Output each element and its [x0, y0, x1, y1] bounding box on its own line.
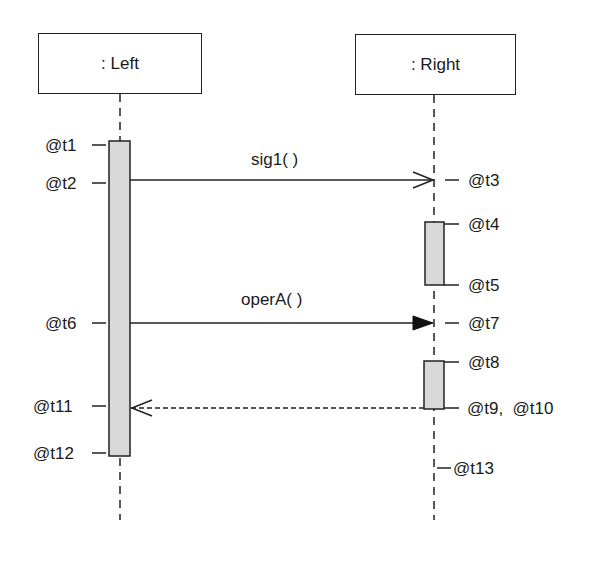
time-label-t8: @t8 — [468, 354, 499, 371]
time-label-t2: @t2 — [45, 175, 76, 192]
right-activation-bar-1 — [425, 222, 444, 285]
time-label-t4: @t4 — [468, 216, 499, 233]
left-lifeline-label: : Left — [101, 54, 139, 74]
sig1-message-label: sig1( ) — [251, 151, 298, 168]
left-activation-bar — [109, 141, 130, 456]
opera-message-label: operA( ) — [241, 291, 302, 308]
filled-arrowhead-icon — [413, 316, 433, 330]
time-label-t1: @t1 — [45, 137, 76, 154]
time-label-t12: @t12 — [33, 445, 74, 462]
time-label-t11: @t11 — [33, 398, 73, 415]
left-lifeline-header: : Left — [38, 33, 202, 94]
right-activation-bar-2 — [424, 361, 444, 409]
time-label-t6: @t6 — [45, 315, 76, 332]
time-label-t7: @t7 — [468, 315, 499, 332]
time-label-t13: @t13 — [453, 460, 494, 477]
time-label-t9-t10: @t9, @t10 — [467, 400, 554, 417]
right-lifeline-label: : Right — [411, 55, 460, 75]
right-lifeline-header: : Right — [355, 34, 516, 95]
time-label-t5: @t5 — [468, 277, 499, 294]
time-label-t3: @t3 — [468, 172, 499, 189]
